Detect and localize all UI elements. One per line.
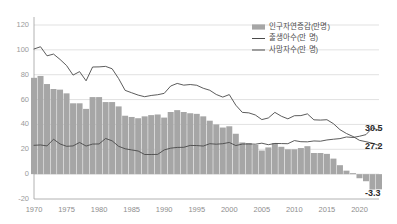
y-tick-label: 20 [21, 144, 29, 153]
bar [207, 121, 213, 174]
bar [142, 116, 148, 174]
y-tick-label: 80 [21, 70, 29, 79]
bar [57, 90, 63, 175]
bar [77, 103, 83, 174]
x-tick-label: 1995 [188, 205, 205, 214]
bar [356, 174, 362, 178]
bar [311, 153, 317, 174]
bar [38, 76, 44, 174]
bar [330, 159, 336, 175]
bar [317, 153, 323, 174]
bar [226, 126, 232, 174]
x-tick-label: 2005 [253, 205, 270, 214]
y-tick-label: 100 [16, 45, 29, 54]
bar [187, 113, 193, 174]
value-annotation: 30.5 [365, 123, 383, 133]
bar [51, 89, 57, 174]
x-tick-label: 2020 [351, 205, 368, 214]
bar [135, 118, 141, 174]
population-change-chart: 120100806040200-20 197019751980198519901… [0, 0, 397, 224]
bar [343, 171, 349, 174]
bar [70, 103, 76, 174]
bar [181, 112, 187, 174]
bar [265, 147, 271, 174]
y-tick-label: -20 [18, 194, 29, 203]
legend-label: 출생아수(만 명) [269, 32, 319, 42]
bar [350, 173, 356, 174]
bar [298, 148, 304, 174]
legend-label: 사망자수(만 명) [269, 44, 319, 54]
x-axis-tick-labels: 1970197519801985199019952000200520102015… [26, 205, 368, 214]
legend-swatch-bar [252, 24, 265, 29]
bar [272, 143, 278, 174]
bar [96, 97, 102, 174]
y-tick-label: 60 [21, 95, 29, 104]
x-tick-label: 1985 [123, 205, 140, 214]
bar [259, 151, 265, 175]
bar [155, 114, 161, 174]
bar [291, 149, 297, 174]
bar [304, 146, 310, 174]
bar [252, 145, 258, 174]
legend-label: 인구자연증감(만명) [269, 21, 330, 31]
x-tick-label: 2010 [286, 205, 303, 214]
bar [278, 147, 284, 174]
value-annotation: 27.2 [365, 141, 383, 151]
y-tick-label: 120 [16, 20, 29, 29]
bar [161, 118, 167, 175]
bar [174, 110, 180, 174]
y-axis-tick-labels: 120100806040200-20 [16, 20, 29, 203]
bar [44, 84, 50, 174]
bar [168, 112, 174, 174]
x-tick-label: 1975 [58, 205, 75, 214]
x-tick-label: 1970 [26, 205, 43, 214]
bar [337, 165, 343, 174]
bar [122, 116, 128, 174]
bar-series-natural-increase [31, 76, 382, 190]
x-tick-label: 2015 [319, 205, 336, 214]
y-tick-label: 40 [21, 119, 29, 128]
chart-canvas: 120100806040200-20 197019751980198519901… [0, 0, 397, 224]
x-tick-label: 1980 [91, 205, 108, 214]
bar [83, 109, 89, 174]
bar [129, 117, 135, 174]
bar [324, 154, 330, 174]
x-tick-label: 2000 [221, 205, 238, 214]
bar [148, 115, 154, 174]
bar [64, 93, 70, 174]
bar [213, 124, 219, 174]
bar [90, 97, 96, 174]
bar [246, 143, 252, 174]
value-annotation: -3.3 [365, 188, 381, 198]
bar [194, 114, 200, 174]
bar [285, 149, 291, 174]
bar [220, 128, 226, 175]
chart-legend: 인구자연증감(만명)출생아수(만 명)사망자수(만 명) [252, 21, 330, 54]
bar [233, 134, 239, 174]
x-tick-label: 1990 [156, 205, 173, 214]
bar [116, 106, 122, 174]
y-tick-label: 0 [25, 169, 29, 178]
bar [31, 78, 37, 174]
bar [363, 174, 369, 181]
bar [109, 102, 115, 174]
bar [239, 142, 245, 174]
